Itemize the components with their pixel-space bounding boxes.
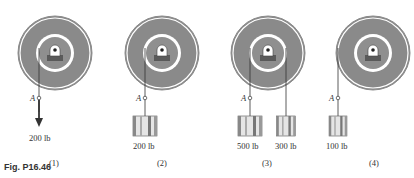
load-label-4: 100 lb: [326, 141, 348, 151]
load-label-3a: 500 lb: [237, 141, 259, 151]
panel-3: [231, 16, 305, 136]
point-a-label-3: A: [241, 93, 246, 103]
pulley-diagram: [0, 0, 414, 178]
point-a-label-2: A: [136, 93, 141, 103]
panel-1: [18, 16, 92, 127]
load-label-1: 200 lb: [29, 133, 51, 143]
point-a-label-1: A: [30, 93, 35, 103]
load-label-3b: 300 lb: [275, 141, 297, 151]
panel-4: [329, 16, 410, 136]
panel-number-4: (4): [369, 158, 379, 168]
panel-number-3: (3): [262, 158, 272, 168]
point-a-label-4: A: [329, 93, 334, 103]
panel-number-2: (2): [157, 158, 167, 168]
load-label-2: 200 lb: [133, 141, 155, 151]
panel-2: [125, 16, 199, 136]
figure-caption: Fig. P16.46: [4, 162, 51, 172]
